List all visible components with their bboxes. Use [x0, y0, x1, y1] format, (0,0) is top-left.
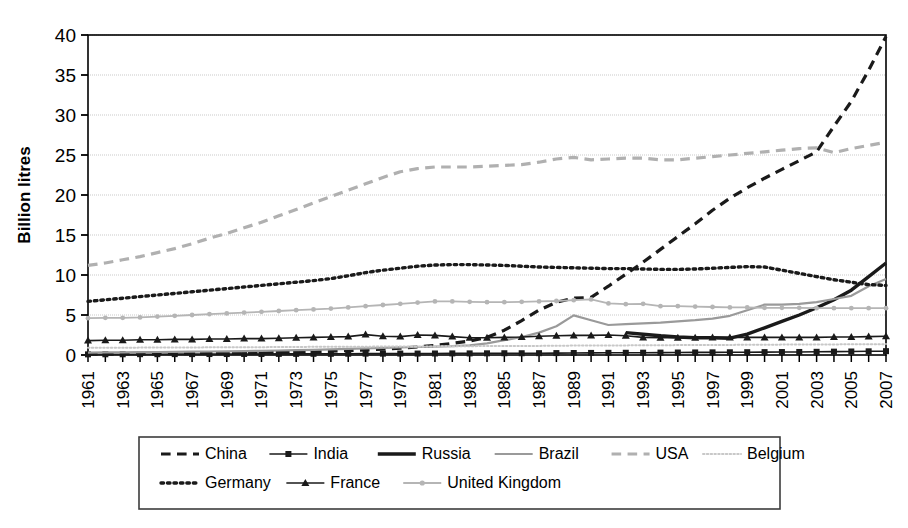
x-axis-tick-label: 2007 [877, 371, 896, 409]
series-marker-united-kingdom [450, 299, 455, 304]
series-marker-india [883, 348, 889, 354]
y-axis-tick-label: 5 [65, 305, 76, 326]
series-marker-india [831, 349, 837, 355]
x-axis-tick-label: 1993 [634, 371, 653, 409]
series-marker-united-kingdom [155, 314, 160, 319]
series-marker-india [588, 350, 594, 356]
y-axis-tick-label: 15 [55, 225, 76, 246]
series-marker-united-kingdom [86, 316, 91, 321]
series-marker-united-kingdom [328, 306, 333, 311]
series-marker-united-kingdom [224, 311, 229, 316]
series-marker-india [571, 350, 577, 356]
series-marker-united-kingdom [606, 301, 611, 306]
series-marker-united-kingdom [537, 299, 542, 304]
legend-label: India [313, 445, 348, 462]
series-line-russia [626, 263, 886, 338]
series-marker-united-kingdom [554, 299, 559, 304]
series-marker-united-kingdom [294, 308, 299, 313]
x-axis-tick-label: 1989 [565, 371, 584, 409]
x-axis-tick-label: 1979 [391, 371, 410, 409]
x-axis-tick-label: 1963 [114, 371, 133, 409]
series-marker-india [449, 350, 455, 356]
y-axis-tick-label: 35 [55, 65, 76, 86]
series-marker-india [796, 349, 802, 355]
series-marker-india [293, 351, 299, 357]
series-marker-united-kingdom [832, 306, 837, 311]
series-marker-united-kingdom [138, 315, 143, 320]
series-marker-united-kingdom [103, 315, 108, 320]
series-marker-india [814, 349, 820, 355]
series-marker-united-kingdom [433, 299, 438, 304]
y-axis-tick-label: 0 [65, 345, 76, 366]
legend-label: Russia [422, 445, 471, 462]
series-marker-india [380, 351, 386, 357]
series-marker-united-kingdom [363, 304, 368, 309]
series-marker-united-kingdom [415, 300, 420, 305]
series-marker-united-kingdom [884, 306, 889, 311]
series-marker-united-kingdom [398, 301, 403, 306]
series-marker-united-kingdom [190, 313, 195, 318]
series-marker-india [640, 350, 646, 356]
series-marker-india [501, 350, 507, 356]
series-marker-united-kingdom [693, 304, 698, 309]
series-marker-united-kingdom [762, 305, 767, 310]
series-marker-india [311, 351, 317, 357]
x-axis-tick-label: 1985 [495, 371, 514, 409]
series-marker-united-kingdom [780, 305, 785, 310]
legend-label: Belgium [747, 445, 805, 462]
legend-marker-square [285, 451, 291, 457]
x-axis-tick-label: 1973 [287, 371, 306, 409]
series-line-usa [88, 142, 886, 265]
series-marker-united-kingdom [710, 305, 715, 310]
series-marker-united-kingdom [866, 306, 871, 311]
x-axis-tick-label: 1995 [669, 371, 688, 409]
series-marker-india [623, 350, 629, 356]
x-axis-tick-label: 1987 [530, 371, 549, 409]
series-marker-india [657, 350, 663, 356]
series-marker-india [692, 349, 698, 355]
series-marker-united-kingdom [658, 304, 663, 309]
series-marker-india [675, 350, 681, 356]
series-marker-india [397, 351, 403, 357]
x-axis-tick-label: 1967 [183, 371, 202, 409]
legend-marker-star [420, 480, 425, 485]
series-marker-united-kingdom [641, 301, 646, 306]
series-marker-india [710, 349, 716, 355]
series-marker-india [536, 350, 542, 356]
series-marker-united-kingdom [276, 309, 281, 314]
legend-label: Germany [205, 474, 271, 491]
series-marker-india [727, 349, 733, 355]
x-axis-tick-label: 1983 [461, 371, 480, 409]
series-line-belgium [88, 344, 886, 348]
x-axis-tick-label: 1975 [322, 371, 341, 409]
y-axis-title: Billion litres [15, 146, 34, 243]
series-marker-united-kingdom [485, 300, 490, 305]
series-marker-united-kingdom [207, 312, 212, 317]
series-marker-india [484, 350, 490, 356]
chart-root: 0510152025303540Billion litres1961196319… [0, 0, 908, 528]
series-marker-india [762, 349, 768, 355]
x-axis-tick-label: 1969 [218, 371, 237, 409]
series-marker-india [553, 350, 559, 356]
series-marker-united-kingdom [381, 303, 386, 308]
series-marker-united-kingdom [797, 305, 802, 310]
series-marker-india [779, 349, 785, 355]
series-marker-united-kingdom [519, 299, 524, 304]
legend-label: China [205, 445, 247, 462]
x-axis-tick-label: 2001 [773, 371, 792, 409]
x-axis-tick-label: 1981 [426, 371, 445, 409]
series-marker-india [848, 348, 854, 354]
series-marker-india [276, 351, 282, 357]
x-axis-tick-label: 1997 [704, 371, 723, 409]
x-axis-tick-label: 1991 [599, 371, 618, 409]
series-marker-united-kingdom [242, 310, 247, 315]
x-axis-tick-label: 1961 [79, 371, 98, 409]
series-marker-united-kingdom [814, 306, 819, 311]
line-chart: 0510152025303540Billion litres1961196319… [0, 0, 908, 528]
x-axis-tick-label: 2005 [842, 371, 861, 409]
x-axis-tick-label: 1971 [252, 371, 271, 409]
y-axis-tick-label: 10 [55, 265, 76, 286]
series-marker-india [605, 350, 611, 356]
y-axis-tick-label: 40 [55, 25, 76, 46]
x-axis-tick-label: 1999 [738, 371, 757, 409]
